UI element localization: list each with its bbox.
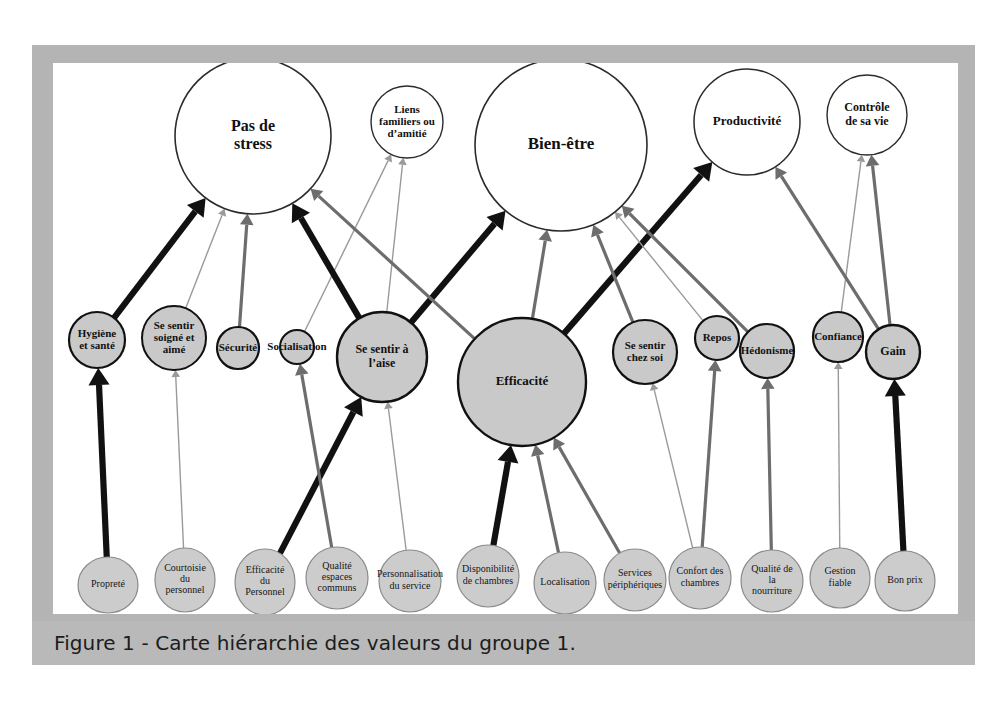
link-line (493, 462, 508, 546)
link-line (841, 162, 861, 313)
link-line (619, 217, 703, 321)
link-line (532, 241, 545, 319)
consequences-layer: Hygièneet santéSe sentirsoigné etaiméSéc… (69, 306, 920, 446)
node-label: Propreté (91, 578, 125, 589)
link-line (838, 369, 839, 548)
link-line (538, 455, 559, 552)
figure-page: PropretéCourtoisiedupersonnelEfficacitéd… (0, 0, 1008, 710)
node-label: Se sentirchez soi (625, 338, 666, 362)
link-line (387, 165, 403, 312)
link-line (702, 371, 714, 547)
consequence-node-chez_soi[interactable]: Se sentirchez soi (613, 320, 677, 384)
link-line (388, 409, 406, 551)
value-node-liens_familiers[interactable]: Liensfamiliers oud’amitié (371, 86, 443, 158)
link-line (301, 218, 359, 318)
link-arrowhead (88, 368, 109, 385)
attribute-node-gestion_fiable[interactable]: Gestionfiable (810, 548, 870, 608)
link-arrowhead (761, 378, 775, 389)
link-line (895, 396, 903, 551)
node-label: Localisation (540, 576, 589, 587)
consequence-node-confiance[interactable]: Confiance (813, 312, 863, 362)
node-label: Contrôlede sa vie (844, 100, 890, 127)
link-arrowhead (857, 155, 866, 163)
node-label: Productivité (713, 113, 782, 128)
value-node-pas_de_stress[interactable]: Pas destress (175, 63, 331, 214)
value-map-svg: PropretéCourtoisiedupersonnelEfficacitéd… (53, 63, 958, 614)
link-arrowhead (295, 364, 308, 376)
consequence-node-efficacite[interactable]: Efficacité (458, 318, 586, 446)
link-line (597, 235, 633, 322)
node-label: Sécurité (219, 341, 258, 353)
attribute-node-confort_chambres[interactable]: Confort deschambres (669, 547, 731, 609)
node-label: Gestionfiable (824, 566, 855, 588)
attribute-node-disponibilite[interactable]: Disponibilitéde chambres (457, 545, 519, 607)
node-label: Hygièneet santé (78, 326, 117, 350)
consequence-node-hygiene_sante[interactable]: Hygièneet santé (69, 312, 125, 368)
attribute-node-personnalisation[interactable]: Personnalisationdu service (377, 550, 443, 612)
link-line (176, 377, 184, 548)
attribute-node-qualite_nourriture[interactable]: Qualité delanourriture (741, 550, 803, 612)
link-line (280, 412, 354, 553)
consequence-node-socialisation[interactable]: Socialisation (267, 330, 326, 364)
attributes-layer: PropretéCourtoisiedupersonnelEfficacitéd… (78, 545, 935, 614)
attribute-node-proprete[interactable]: Propreté (78, 557, 138, 613)
link-arrowhead (615, 212, 623, 220)
consequence-node-hedonisme[interactable]: Hédonisme (740, 324, 794, 378)
link-arrowhead (885, 379, 906, 397)
link-line (768, 389, 772, 550)
node-label: Disponibilitéde chambres (462, 564, 515, 586)
link-arrowhead (539, 230, 552, 242)
consequence-node-soigne_aime[interactable]: Se sentirsoigné etaimé (142, 306, 206, 370)
node-label: Bon prix (887, 574, 922, 585)
node-label: Socialisation (267, 340, 326, 352)
node-label: Hédonisme (741, 344, 794, 356)
link-line (411, 224, 495, 323)
link-arrowhead (240, 214, 254, 225)
value-node-productivite[interactable]: Productivité (694, 69, 800, 175)
link-line (99, 385, 107, 557)
link-arrowhead (866, 155, 880, 167)
link-line (630, 214, 748, 332)
link-arrowhead (708, 360, 722, 371)
link-line (559, 447, 619, 553)
node-label: Pas destress (231, 117, 275, 152)
attribute-node-services_periph[interactable]: Servicespériphériques (604, 549, 666, 611)
value-node-bien_etre[interactable]: Bien-être (475, 63, 647, 231)
attribute-node-efficacite_personnel[interactable]: EfficacitéduPersonnel (235, 549, 295, 614)
link-line (781, 176, 878, 329)
node-label: Gain (880, 344, 906, 358)
node-label: Confort deschambres (677, 566, 724, 588)
diagram-canvas: PropretéCourtoisiedupersonnelEfficacitéd… (53, 63, 958, 614)
consequence-node-gain[interactable]: Gain (866, 325, 920, 379)
attribute-node-courtoisie[interactable]: Courtoisiedupersonnel (155, 548, 215, 612)
node-label: Repos (703, 331, 732, 343)
figure-caption-bar: Figure 1 - Carte hiérarchie des valeurs … (32, 621, 975, 665)
values-layer: Pas destressLiensfamiliers oud’amitiéBie… (175, 63, 907, 231)
link-arrowhead (171, 370, 180, 377)
link-line (186, 215, 222, 308)
link-line (114, 211, 195, 317)
node-label: Qualitéespacescommuns (318, 560, 357, 593)
attribute-node-localisation[interactable]: Localisation (534, 552, 596, 614)
figure-caption: Figure 1 - Carte hiérarchie des valeurs … (32, 631, 576, 655)
link-line (654, 390, 692, 548)
node-label: Bien-être (528, 134, 595, 153)
node-label: Confiance (814, 330, 862, 342)
link-arrowhead (498, 445, 519, 464)
link-arrowhead (531, 445, 544, 457)
link-arrowhead (398, 158, 407, 165)
attribute-node-qualite_espaces[interactable]: Qualitéespacescommuns (306, 547, 368, 609)
link-line (239, 225, 246, 327)
link-line (873, 166, 891, 325)
node-label: Efficacité (496, 373, 549, 388)
consequence-node-se_sentir_aise[interactable]: Se sentir àl’aise (337, 312, 427, 402)
value-node-controle_vie[interactable]: Contrôlede sa vie (827, 75, 907, 155)
attribute-node-bon_prix[interactable]: Bon prix (875, 551, 935, 611)
consequence-node-repos[interactable]: Repos (695, 316, 739, 360)
consequence-node-securite[interactable]: Sécurité (217, 327, 259, 369)
